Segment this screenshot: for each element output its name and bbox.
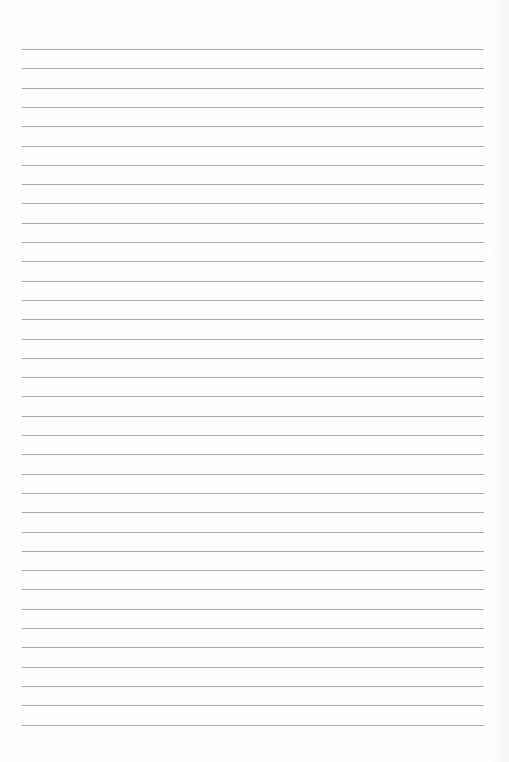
ruled-line [22,512,484,513]
ruled-line [22,570,484,571]
ruled-line [22,609,484,610]
ruled-line [22,725,484,726]
ruled-line [22,532,484,533]
page-edge-shade [491,0,509,762]
ruled-line [22,705,484,706]
ruled-line [22,242,484,243]
ruled-line [22,589,484,590]
ruled-line [22,68,484,69]
ruled-line [22,647,484,648]
ruled-line [22,49,484,50]
ruled-line [22,435,484,436]
lined-paper-page [0,0,509,762]
ruled-line [22,551,484,552]
ruled-line [22,126,484,127]
ruled-line [22,223,484,224]
ruled-line [22,493,484,494]
ruled-line [22,474,484,475]
ruled-line [22,416,484,417]
ruled-line [22,377,484,378]
ruled-line [22,358,484,359]
ruled-line [22,146,484,147]
ruled-line [22,396,484,397]
ruled-line [22,107,484,108]
ruled-line [22,88,484,89]
ruled-line [22,628,484,629]
ruled-line [22,686,484,687]
ruled-line [22,184,484,185]
ruled-line [22,261,484,262]
ruled-line [22,454,484,455]
ruled-line [22,203,484,204]
ruled-line [22,339,484,340]
ruled-line [22,165,484,166]
ruled-line [22,300,484,301]
ruled-line [22,319,484,320]
ruled-line [22,281,484,282]
ruled-line [22,667,484,668]
